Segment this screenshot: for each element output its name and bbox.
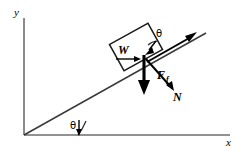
block-angle-label: θ (156, 28, 162, 39)
inclined-plane (24, 33, 206, 135)
coordinate-axes: y x (13, 6, 231, 148)
horizontal-component-arrowhead (134, 56, 141, 62)
inclined-plane-free-body-diagram: y x θ F f N (0, 0, 243, 151)
x-axis-label: x (225, 136, 231, 148)
incline-surface-line (24, 33, 206, 135)
friction-force-vector: F f (147, 32, 197, 84)
base-angle-label: θ (70, 120, 76, 131)
friction-vector-line (147, 37, 191, 62)
weight-label: W (118, 43, 130, 57)
y-axis-label: y (13, 6, 19, 18)
physics-diagram-canvas: y x θ F f N (0, 0, 243, 151)
normal-label: N (172, 90, 183, 104)
block-angle-arrowhead (145, 47, 154, 55)
base-angle-marker: θ (70, 120, 86, 136)
weight-arrowhead (138, 80, 150, 95)
